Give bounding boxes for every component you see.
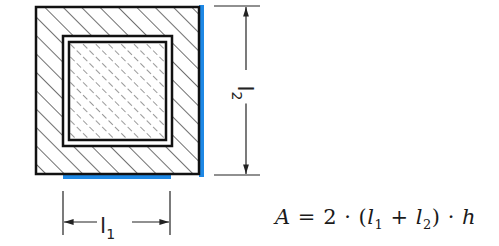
area-formula: A = 2 · (l1 + l2) · h	[275, 205, 476, 232]
window-frame	[63, 36, 172, 146]
l2-label: l2	[230, 82, 256, 103]
l1-label: l1	[97, 215, 118, 241]
